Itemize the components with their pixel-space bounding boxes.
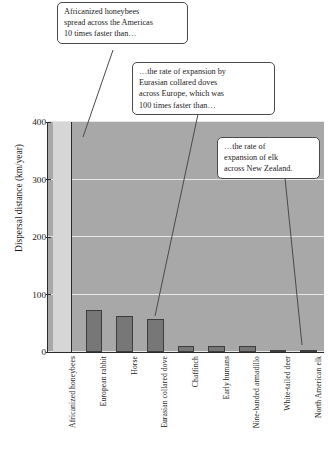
- y-axis-tick-mark: [46, 352, 51, 353]
- x-axis-tick-label-text: Nine-banded armadillo: [252, 356, 261, 428]
- bar: [300, 350, 317, 352]
- x-axis-tick-label: Eurasian collared dove: [157, 356, 166, 428]
- x-axis-tick-label-text: Africanized honeybees: [68, 356, 77, 428]
- callout-text-line: Eurasian collared doves: [139, 77, 269, 88]
- bar: [270, 350, 287, 352]
- y-axis-tick-label: 200: [32, 231, 46, 243]
- y-axis-tick-mark: [46, 122, 51, 123]
- gridline: [48, 236, 324, 237]
- x-axis-tick-label-text: Eurasian collared dove: [160, 356, 169, 428]
- y-axis-tick-label: 0: [41, 346, 46, 358]
- callout-text-line: …the rate of: [224, 141, 314, 152]
- bar: [208, 346, 225, 352]
- bar: [178, 346, 195, 352]
- y-axis-tick-mark: [46, 294, 51, 295]
- callout-eurasian-collared-doves: …the rate of expansion byEurasian collar…: [132, 62, 275, 115]
- callout-text-line: …the rate of expansion by: [139, 66, 269, 77]
- y-axis-tick-mark: [46, 237, 51, 238]
- bar: [239, 346, 256, 352]
- x-axis-tick-label-text: Early humans: [222, 356, 231, 399]
- x-axis-tick-label: Horse: [127, 356, 136, 375]
- x-axis-tick-label-text: North American elk: [314, 356, 323, 418]
- bar: [116, 316, 133, 352]
- x-axis-tick-label: Chaffinch: [188, 356, 197, 387]
- callout-text-line: 10 times faster than…: [64, 28, 182, 39]
- callout-text-line: 100 times faster than…: [139, 100, 269, 111]
- gridline: [48, 179, 324, 180]
- bar: [147, 319, 164, 352]
- x-axis-tick-label: European rabbit: [96, 356, 105, 406]
- callout-text-line: expansion of elk: [224, 152, 314, 163]
- y-axis-tick-label: 300: [32, 174, 46, 186]
- x-axis: Africanized honeybeesEuropean rabbitHors…: [47, 356, 323, 457]
- x-axis-tick-label-text: Horse: [130, 356, 139, 375]
- x-axis-tick-label-text: Chaffinch: [191, 356, 200, 387]
- x-axis-tick-label: Africanized honeybees: [65, 356, 74, 428]
- callout-text-line: Africanized honeybees: [64, 6, 182, 17]
- callout-africanized-honeybees: Africanized honeybeesspread across the A…: [57, 2, 188, 44]
- x-axis-tick-label: White-tailed deer: [280, 356, 289, 411]
- callout-north-american-elk: …the rate ofexpansion of elkacross New Z…: [217, 137, 320, 179]
- x-axis-tick-label-text: European rabbit: [99, 356, 108, 406]
- bar: [86, 310, 103, 352]
- gridline: [48, 294, 324, 295]
- bar: [53, 122, 72, 352]
- y-axis-tick-label: 100: [32, 289, 46, 301]
- y-axis-tick-mark: [46, 179, 51, 180]
- x-axis-tick-label: Early humans: [219, 356, 228, 399]
- callout-text-line: across New Zealand.: [224, 163, 314, 174]
- gridline: [48, 121, 324, 122]
- callout-text-line: spread across the Americas: [64, 17, 182, 28]
- x-axis-tick-label-text: White-tailed deer: [283, 356, 292, 411]
- y-axis-title: Dispersal distance (km/year): [14, 118, 24, 278]
- callout-text-line: across Europe, which was: [139, 88, 269, 99]
- x-axis-tick-label: North American elk: [311, 356, 320, 418]
- y-axis-tick-label: 400: [32, 116, 46, 128]
- x-axis-tick-label: Nine-banded armadillo: [249, 356, 258, 428]
- dispersal-distance-bar-chart: 0100200300400 Dispersal distance (km/yea…: [0, 0, 328, 457]
